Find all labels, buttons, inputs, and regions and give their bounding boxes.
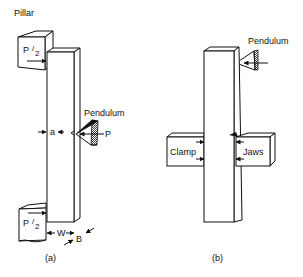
width-label: W <box>57 228 66 238</box>
panel-b: Pendulum Clamp Jaws <box>167 36 289 263</box>
thickness-label: B <box>76 234 82 244</box>
clamp-block: Clamp <box>167 133 204 166</box>
caption-b: (b) <box>212 253 223 263</box>
pendulum-label-b: Pendulum <box>248 36 289 46</box>
top-load-P: P <box>23 45 29 55</box>
force-label: P <box>105 129 111 139</box>
clamp-label: Clamp <box>170 147 196 157</box>
width-dim: W <box>47 228 74 238</box>
caption-a: (a) <box>45 253 56 263</box>
notch-depth-label: a <box>50 127 55 137</box>
impact-test-diagram: Pillar P / 2 a Pendulum <box>0 0 303 277</box>
panel-a: Pillar P / 2 a Pendulum <box>14 8 125 263</box>
bottom-pillar: P / 2 <box>19 203 46 242</box>
bottom-load-den: 2 <box>35 222 40 231</box>
pendulum-a: Pendulum P <box>76 108 125 145</box>
jaws-block: Jaws <box>229 132 275 166</box>
pendulum-label-a: Pendulum <box>84 108 125 118</box>
thickness-dim: B <box>64 228 94 245</box>
pendulum-b: Pendulum <box>236 36 289 70</box>
bottom-load-P: P <box>23 218 29 228</box>
pillar-label: Pillar <box>14 8 34 18</box>
jaws-label: Jaws <box>243 147 264 157</box>
top-load-den: 2 <box>35 49 40 58</box>
